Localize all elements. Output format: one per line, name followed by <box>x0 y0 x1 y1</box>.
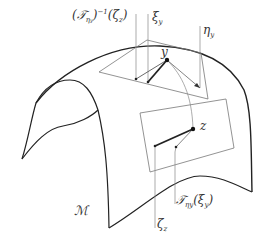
vectors-at-z <box>154 127 196 149</box>
inverse-transport-vector <box>136 60 167 79</box>
label-eta-y: ηy <box>203 24 214 39</box>
label-point-z: z <box>200 120 206 132</box>
label-manifold: ℳ <box>74 204 88 217</box>
label-inverse-transport: (𝒯ηy)−1(ζz) <box>72 9 127 24</box>
diagram-canvas: (𝒯ηy)−1(ζz) ξy ηy y z 𝒯ηy(ξy) ζz ℳ <box>0 0 259 244</box>
label-transport-xi: 𝒯ηy(ξy) <box>176 194 213 209</box>
transport-xi-vector <box>176 129 193 147</box>
label-point-y: y <box>161 46 168 58</box>
xi-y-vector <box>148 60 167 82</box>
manifold-surface <box>22 46 252 228</box>
point-z <box>191 127 195 131</box>
manifold-figure <box>0 0 259 244</box>
tangent-plane-y <box>99 40 208 99</box>
label-xi-y: ξy <box>152 11 163 26</box>
zeta-z-vector <box>155 129 193 146</box>
label-zeta-z: ζz <box>157 218 167 233</box>
